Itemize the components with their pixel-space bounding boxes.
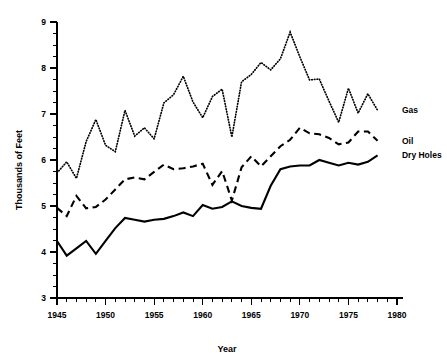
x-tick-label: 1960 xyxy=(193,310,212,320)
y-tick-label: 6 xyxy=(41,155,46,165)
x-tick-label: 1950 xyxy=(96,310,115,320)
x-tick-label: 1980 xyxy=(388,310,407,320)
series-line-oil xyxy=(57,128,378,216)
y-axis-title: Thousands of Feet xyxy=(14,130,24,210)
y-tick-label: 7 xyxy=(41,109,46,119)
y-tick-label: 4 xyxy=(41,247,46,257)
y-tick-label: 5 xyxy=(41,201,46,211)
y-tick-label: 8 xyxy=(41,63,46,73)
x-tick-label: 1975 xyxy=(339,310,358,320)
y-tick-label: 9 xyxy=(41,17,46,27)
tick-labels-group: 345678919451950195519601965197019751980 xyxy=(41,17,406,320)
x-axis-title: Year xyxy=(217,344,237,354)
series-label-dry-holes: Dry Holes xyxy=(402,150,442,160)
x-tick-label: 1945 xyxy=(48,310,67,320)
x-tick-label: 1955 xyxy=(145,310,164,320)
axes-group xyxy=(57,22,403,298)
chart-page: 345678919451950195519601965197019751980 … xyxy=(0,0,447,364)
x-tick-label: 1965 xyxy=(242,310,261,320)
x-tick-label: 1970 xyxy=(290,310,309,320)
series-group xyxy=(57,32,378,256)
series-label-gas: Gas xyxy=(402,105,418,115)
y-tick-label: 3 xyxy=(41,293,46,303)
line-chart: 345678919451950195519601965197019751980 … xyxy=(0,0,447,364)
series-line-dry-holes xyxy=(57,155,378,255)
series-line-gas xyxy=(57,32,378,178)
series-labels-group: GasOilDry Holes xyxy=(402,105,442,160)
series-label-oil: Oil xyxy=(402,136,413,146)
